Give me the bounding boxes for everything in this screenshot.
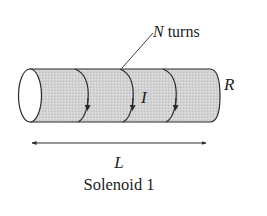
current-arrow-icon-3: [176, 98, 177, 108]
length-label: L: [113, 153, 123, 172]
diagram-caption: Solenoid 1: [83, 175, 154, 194]
cylinder-body: [30, 69, 220, 122]
solenoid-body: [19, 69, 221, 122]
turns-text: turns: [164, 23, 200, 40]
turns-leader-line: [122, 33, 153, 68]
current-arrow-icon-2: [133, 98, 134, 108]
current-arrow-icon-1: [88, 98, 89, 108]
cylinder-end-cap: [19, 69, 42, 122]
solenoid-diagram: N turns R I L Solenoid 1: [0, 0, 267, 216]
radius-label: R: [223, 75, 235, 94]
turns-label: N turns: [152, 23, 200, 40]
